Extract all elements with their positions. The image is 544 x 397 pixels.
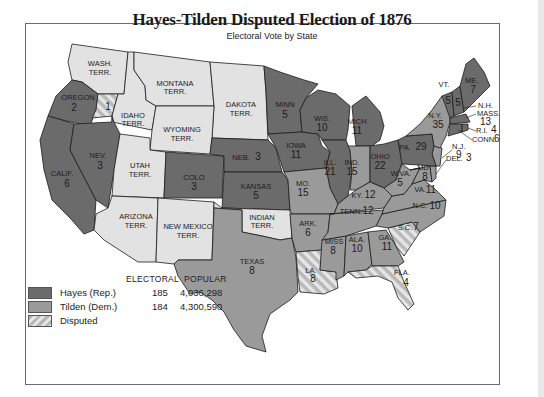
label-ind-votes: 15: [346, 166, 358, 177]
legend-popular: 4,036,298: [180, 287, 222, 298]
legend-electoral: 184: [152, 301, 168, 312]
label-arizona: ARIZONA: [119, 212, 152, 221]
label-pa: PA.: [399, 143, 411, 152]
label-ri: R.I.: [476, 126, 488, 135]
label-del-votes: 3: [466, 152, 472, 163]
label-sc: S.C.: [398, 223, 413, 232]
label-me-votes: 7: [470, 84, 476, 95]
label-wis-votes: 10: [316, 122, 328, 133]
label-wash-sub: TERR.: [89, 68, 112, 77]
label-mich-votes: 11: [352, 125, 363, 136]
legend-row-tilden: Tilden (Dem.) 184 4,300,590: [28, 301, 258, 314]
label-wyoming-sub: TERR.: [171, 134, 194, 143]
legend-name: Hayes (Rep.): [60, 287, 116, 298]
label-nev-votes: 3: [97, 160, 103, 171]
swatch-republican: [28, 287, 52, 299]
label-wva-votes: 5: [397, 177, 403, 188]
label-indian-sub: TERR.: [251, 221, 274, 230]
map-subtitle: Electoral Vote by State: [0, 31, 544, 41]
label-kansas-votes: 5: [253, 190, 259, 201]
legend-electoral: 185: [152, 287, 168, 298]
label-pa-votes: 29: [415, 141, 427, 152]
label-va: VA.: [414, 185, 426, 194]
label-nh-votes: 5: [455, 97, 461, 108]
legend-header-popular: POPULAR: [184, 274, 227, 284]
region-ri: [462, 124, 468, 132]
label-nc-votes: 10: [429, 200, 441, 211]
label-neb: NEB.: [232, 153, 250, 162]
swatch-democrat: [28, 301, 52, 313]
legend-name: Tilden (Dem.): [60, 301, 117, 312]
label-dakota: DAKOTA: [226, 100, 256, 109]
label-minn: MINN: [275, 100, 294, 109]
label-oregon: OREGON: [61, 93, 94, 102]
legend-row-disputed: Disputed: [28, 315, 258, 328]
legend-row-hayes: Hayes (Rep.) 185 4,036,298: [28, 287, 258, 300]
label-utah-sub: TERR.: [129, 170, 152, 179]
label-newmexico-sub: TERR.: [177, 231, 200, 240]
label-nev: NEV.: [90, 151, 107, 160]
label-iowa-votes: 11: [291, 149, 302, 160]
label-ala-votes: 10: [351, 243, 363, 254]
label-ga-votes: 11: [382, 241, 393, 252]
legend-name: Disputed: [60, 315, 98, 326]
label-vt-votes: 5: [445, 95, 451, 106]
label-minn-votes: 5: [282, 109, 288, 120]
map-title: Hayes-Tilden Disputed Election of 1876: [0, 10, 544, 30]
label-tenn: TENN.: [340, 207, 363, 216]
legend-header-electoral: ELECTORAL: [126, 274, 179, 284]
label-newmexico: NEW MEXICO: [163, 222, 212, 231]
label-texas-votes: 8: [249, 265, 255, 276]
label-conn-votes: 6: [494, 133, 500, 144]
swatch-disputed: [28, 315, 52, 327]
label-conn: CONN.: [472, 135, 496, 144]
label-ky: KY.: [351, 191, 362, 200]
legend-popular: 4,300,590: [180, 301, 222, 312]
label-mo-votes: 15: [297, 187, 309, 198]
label-va-votes: 11: [426, 184, 437, 195]
label-sc-votes: 7: [413, 221, 419, 232]
label-fla-votes: 4: [403, 277, 409, 288]
label-ohio-votes: 22: [374, 160, 386, 171]
label-arizona-sub: TERR.: [125, 221, 148, 230]
label-ill-votes: 21: [324, 166, 336, 177]
label-vt: VT.: [439, 80, 450, 89]
label-wash: WASH.: [88, 59, 112, 68]
label-tenn-votes: 12: [362, 205, 374, 216]
label-colo-votes: 3: [191, 181, 197, 192]
label-ark-votes: 6: [305, 227, 311, 238]
label-calif-votes: 6: [64, 178, 70, 189]
label-la-votes: 8: [310, 273, 316, 284]
label-oregon-disputed-votes: 1: [105, 101, 111, 112]
label-ky-votes: 12: [364, 189, 376, 200]
label-neb-votes: 3: [255, 151, 261, 162]
us-map: WASH. TERR. OREGON 2 1 IDAHO TERR. MONTA…: [0, 0, 544, 397]
label-nc: N.C.: [413, 201, 428, 210]
label-calif: CALIF.: [51, 169, 74, 178]
label-wyoming: WYOMING: [163, 125, 201, 134]
label-idaho-sub: TERR.: [122, 119, 145, 128]
label-fla: FLA.: [394, 268, 410, 277]
label-nj-votes: 9: [456, 149, 462, 160]
label-montana-sub: TERR.: [164, 87, 187, 96]
label-dakota-sub: TERR.: [230, 109, 253, 118]
region-conn: [448, 124, 462, 136]
label-oregon-votes: 2: [71, 102, 77, 113]
label-ny-votes: 35: [432, 119, 444, 130]
label-miss-votes: 8: [330, 245, 336, 256]
label-md-votes: 8: [422, 171, 428, 182]
label-utah: UTAH: [130, 161, 150, 170]
